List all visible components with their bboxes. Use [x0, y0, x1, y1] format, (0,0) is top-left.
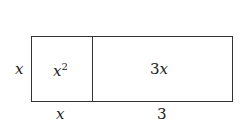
side-label-x: x — [15, 62, 23, 77]
cell-label-coef: 3 — [150, 60, 160, 78]
cell-label-var: x — [160, 60, 168, 78]
cell-label-3x: 3x — [150, 62, 168, 77]
cell-label-exponent: 2 — [61, 61, 67, 72]
bottom-label-3: 3 — [157, 107, 167, 122]
bottom-label-x: x — [56, 107, 64, 122]
cell-label-x-squared: x2 — [53, 62, 68, 79]
